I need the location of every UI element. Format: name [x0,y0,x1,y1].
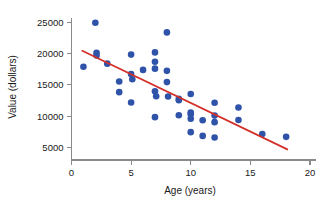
x-axis-tick-label: 0 [69,167,74,178]
data-point [140,67,147,74]
y-axis-tick-label: 20000 [37,48,63,59]
data-point [211,99,218,106]
scatter-plot-figure: 500010000150002000025000 05101520 Age (y… [0,0,335,203]
x-axis-tick-label: 5 [128,167,133,178]
data-point [92,19,99,26]
data-point [199,133,206,140]
data-point [128,51,135,58]
data-point [152,114,159,121]
x-axis-tick-label: 15 [245,167,256,178]
data-point [129,76,136,83]
data-point [176,112,183,119]
data-point [164,79,171,86]
chart-canvas: 500010000150002000025000 05101520 Age (y… [0,0,335,203]
data-point [116,89,123,96]
data-point [128,99,135,106]
x-axis-tick-label: 20 [305,167,316,178]
y-axis-title: Value (dollars) [7,55,18,119]
y-axis-tick-label: 10000 [37,111,63,122]
data-point [211,119,218,126]
y-axis-tick-label: 15000 [37,79,63,90]
data-point [211,134,218,141]
data-point [80,63,87,70]
data-point [153,93,160,100]
x-axis-tick-label: 10 [185,167,196,178]
data-point [116,78,123,85]
data-point [199,117,206,124]
data-point [235,117,242,124]
data-point [152,58,159,65]
y-axis-tick-label: 25000 [37,17,63,28]
data-point [152,65,159,72]
data-point [164,29,171,36]
data-point [187,129,194,136]
data-point [164,68,171,75]
data-point [165,93,172,100]
data-point [283,134,290,141]
x-axis-title: Age (years) [164,185,216,196]
data-point [187,91,194,98]
data-point [152,49,159,56]
y-axis-tick-label: 5000 [42,142,63,153]
data-point [187,115,194,122]
data-point [235,104,242,111]
